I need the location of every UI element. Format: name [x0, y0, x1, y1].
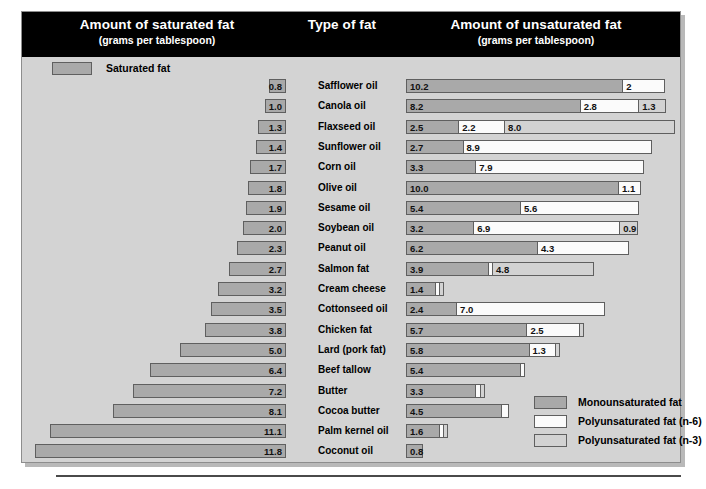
legend-swatch-n3 — [534, 434, 567, 447]
mono-segment-value: 10.0 — [410, 182, 429, 196]
chart-row: 6.4Beef tallow5.4 — [22, 363, 680, 377]
mono-segment: 2.4 — [406, 302, 457, 316]
fat-type-label: Olive oil — [318, 181, 404, 195]
header-saturated: Amount of saturated fat (grams per table… — [24, 12, 290, 57]
n6-segment-value: 8.9 — [467, 141, 480, 155]
mono-segment: 6.2 — [406, 241, 538, 255]
chart-row: 1.4Sunflower oil2.78.9 — [22, 140, 680, 154]
saturated-bar-value: 7.2 — [269, 385, 282, 399]
saturated-bar: 11.1 — [50, 424, 286, 438]
mono-segment-value: 10.2 — [410, 80, 429, 94]
fat-type-label: Palm kernel oil — [318, 424, 404, 438]
saturated-bar: 3.5 — [211, 302, 286, 316]
n6-segment: 2.5 — [526, 323, 579, 337]
chart-row: 3.5Cottonseed oil2.47.0 — [22, 302, 680, 316]
fat-type-label: Soybean oil — [318, 221, 404, 235]
n3-segment — [480, 384, 485, 398]
mono-segment: 4.5 — [406, 404, 502, 418]
mono-segment: 1.4 — [406, 282, 436, 296]
chart-row: 1.3Flaxseed oil2.52.28.0 — [22, 120, 680, 134]
header-saturated-title: Amount of saturated fat — [24, 17, 290, 33]
saturated-bar-value: 2.3 — [269, 242, 282, 256]
fat-type-label: Flaxseed oil — [318, 120, 404, 134]
mono-segment-value: 5.4 — [410, 364, 423, 378]
chart-body: Saturated fat 0.8Safflower oil10.221.0Ca… — [22, 57, 680, 462]
n6-segment: 8.9 — [463, 140, 653, 154]
saturated-bar-value: 3.8 — [269, 324, 282, 338]
n3-segment-value: 8.0 — [508, 121, 521, 135]
saturated-bar: 11.8 — [35, 444, 286, 458]
saturated-bar-value: 1.8 — [269, 182, 282, 196]
header-type: Type of fat — [290, 12, 394, 57]
fat-type-label: Cottonseed oil — [318, 302, 404, 316]
saturated-bar-value: 6.4 — [269, 364, 282, 378]
mono-segment-value: 3.9 — [410, 263, 423, 277]
saturated-bar-value: 2.7 — [269, 263, 282, 277]
chart-header: Amount of saturated fat (grams per table… — [22, 12, 680, 57]
fat-type-label: Corn oil — [318, 160, 404, 174]
chart-panel: Amount of saturated fat (grams per table… — [21, 11, 681, 463]
n6-segment-value: 1.3 — [533, 344, 546, 358]
saturated-bar-value: 1.3 — [269, 121, 282, 135]
chart-row: 1.0Canola oil8.22.81.3 — [22, 99, 680, 113]
fat-type-label: Salmon fat — [318, 262, 404, 276]
fat-type-label: Sesame oil — [318, 201, 404, 215]
fat-type-label: Beef tallow — [318, 363, 404, 377]
saturated-bar-value: 8.1 — [269, 405, 282, 419]
header-unsaturated-subtitle: (grams per tablespoon) — [394, 34, 678, 47]
saturated-bar: 0.8 — [269, 79, 286, 93]
fat-type-label: Sunflower oil — [318, 140, 404, 154]
n6-segment-value: 1.1 — [622, 182, 635, 196]
mono-segment-value: 1.4 — [410, 283, 423, 297]
chart-row: 2.3Peanut oil6.24.3 — [22, 241, 680, 255]
saturated-bar-value: 5.0 — [269, 344, 282, 358]
chart-row: 3.8Chicken fat5.72.5 — [22, 323, 680, 337]
mono-segment-value: 5.8 — [410, 344, 423, 358]
mono-segment: 8.2 — [406, 99, 581, 113]
fat-type-label: Butter — [318, 384, 404, 398]
saturated-bar: 7.2 — [133, 384, 286, 398]
saturated-bar-value: 3.2 — [269, 283, 282, 297]
saturated-bar: 2.0 — [243, 221, 286, 235]
mono-segment: 10.0 — [406, 181, 619, 195]
n6-segment: 7.9 — [475, 160, 643, 174]
saturated-bar: 1.8 — [248, 181, 286, 195]
n6-segment-value: 6.9 — [477, 222, 490, 236]
n6-segment: 6.9 — [473, 221, 620, 235]
n6-segment: 2.2 — [458, 120, 505, 134]
chart-row: 0.8Safflower oil10.22 — [22, 79, 680, 93]
chart-row: 1.8Olive oil10.01.1 — [22, 181, 680, 195]
mono-segment-value: 5.4 — [410, 202, 423, 216]
saturated-bar: 1.9 — [246, 201, 286, 215]
n6-segment: 1.1 — [618, 181, 641, 195]
n6-segment-value: 2.8 — [584, 100, 597, 114]
mono-segment: 2.7 — [406, 140, 464, 154]
header-saturated-subtitle: (grams per tablespoon) — [24, 34, 290, 47]
saturated-bar: 5.0 — [180, 343, 287, 357]
fat-type-label: Peanut oil — [318, 241, 404, 255]
n6-segment — [501, 404, 510, 418]
mono-segment-value: 2.5 — [410, 121, 423, 135]
saturated-bar: 3.2 — [218, 282, 286, 296]
fat-type-label: Safflower oil — [318, 79, 404, 93]
saturated-bar-value: 1.4 — [269, 141, 282, 155]
legend-item-n6: Polyunsaturated fat (n-6) — [534, 414, 706, 433]
header-type-title: Type of fat — [290, 17, 394, 33]
chart-row: 2.7Salmon fat3.94.8 — [22, 262, 680, 276]
mono-segment: 3.9 — [406, 262, 489, 276]
saturated-bar-value: 3.5 — [269, 303, 282, 317]
mono-segment-value: 4.5 — [410, 405, 423, 419]
mono-segment: 5.8 — [406, 343, 530, 357]
saturated-bar: 1.3 — [258, 120, 286, 134]
mono-segment: 3.3 — [406, 384, 476, 398]
n6-segment-value: 4.3 — [541, 242, 554, 256]
mono-segment-value: 2.4 — [410, 303, 423, 317]
header-unsaturated-title: Amount of unsaturated fat — [394, 17, 678, 33]
n3-segment: 8.0 — [504, 120, 674, 134]
mono-segment-value: 5.7 — [410, 324, 423, 338]
n3-segment: 0.9 — [619, 221, 638, 235]
saturated-bar: 1.0 — [265, 99, 286, 113]
n6-segment: 4.3 — [537, 241, 629, 255]
fat-type-label: Lard (pork fat) — [318, 343, 404, 357]
mono-segment: 10.2 — [406, 79, 623, 93]
